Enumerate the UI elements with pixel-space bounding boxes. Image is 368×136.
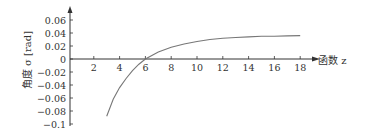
- x-tick-label: 18: [294, 62, 306, 73]
- x-tick-label: 16: [268, 62, 280, 73]
- x-tick-label: 10: [191, 62, 203, 73]
- y-axis-label-cn: 角度: [22, 69, 33, 89]
- y-axis-arrow-icon: [68, 6, 73, 13]
- chart: 0.060.040.020−0.02−0.04−0.06−0.08−0.1246…: [0, 0, 368, 136]
- y-tick-label: −0.06: [37, 93, 66, 104]
- data-curve: [107, 36, 301, 117]
- y-axis-label: 角度 σ [rad]: [19, 31, 34, 89]
- y-tick-label: 0: [60, 54, 66, 65]
- x-tick-label: 14: [243, 62, 255, 73]
- x-tick-label: 12: [217, 62, 229, 73]
- y-tick-label: −0.08: [37, 106, 66, 117]
- y-tick-label: −0.1: [43, 119, 66, 130]
- x-axis-label: 函数 z: [318, 52, 346, 67]
- y-tick-label: 0.02: [45, 41, 66, 52]
- y-axis-label-sym: σ [rad]: [22, 31, 33, 66]
- y-tick-label: 0.06: [45, 15, 66, 26]
- y-tick-label: −0.02: [37, 67, 66, 78]
- y-tick-label: −0.04: [37, 80, 66, 91]
- x-tick-label: 8: [168, 62, 174, 73]
- y-tick-label: 0.04: [45, 28, 66, 39]
- x-tick-label: 2: [91, 62, 97, 73]
- x-tick-label: 4: [117, 62, 123, 73]
- x-tick-label: 6: [142, 62, 148, 73]
